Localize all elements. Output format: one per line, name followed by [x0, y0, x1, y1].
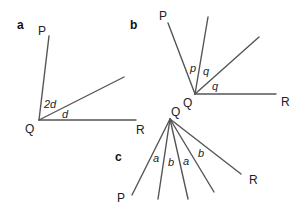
vertex-label-q: Q: [183, 96, 192, 110]
ray-fourth: [170, 119, 214, 192]
ray-qp: [168, 23, 195, 94]
angle-label-q2: q: [212, 80, 219, 92]
angle-label-q1: q: [203, 65, 210, 77]
angle-label-a1: a: [153, 152, 159, 164]
angle-label-b2: b: [198, 147, 204, 159]
point-label-r: R: [136, 123, 145, 137]
part-label-c: c: [115, 150, 122, 164]
diagram-a: a P 2d d Q R: [17, 18, 145, 137]
ray-second: [195, 17, 208, 94]
angle-label-a2: a: [183, 155, 189, 167]
angle-label-p: p: [189, 62, 196, 74]
point-label-r: R: [249, 173, 258, 187]
point-label-p: P: [159, 9, 167, 23]
vertex-label-q: Q: [171, 105, 180, 119]
diagram-b: b P p q q Q R: [130, 9, 290, 110]
part-label-b: b: [130, 18, 137, 32]
point-label-r: R: [281, 95, 290, 109]
angle-label-b1: b: [168, 156, 174, 168]
angle-label-d: d: [62, 108, 69, 120]
part-label-a: a: [17, 18, 24, 32]
vertex-label-q: Q: [25, 122, 34, 136]
angle-label-2d: 2d: [43, 98, 57, 110]
point-label-p: P: [117, 191, 125, 205]
point-label-p: P: [38, 24, 46, 38]
angle-diagrams-figure: a P 2d d Q R b P p q q Q R Q c a b a b P: [0, 0, 304, 214]
